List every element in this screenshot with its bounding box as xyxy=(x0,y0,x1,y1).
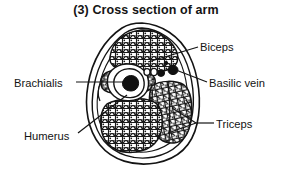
figure-page: (3) Cross section of arm xyxy=(0,0,292,173)
label-humerus: Humerus xyxy=(24,130,69,142)
label-brachialis: Brachialis xyxy=(14,77,63,89)
medullary-cavity xyxy=(122,76,138,91)
label-triceps: Triceps xyxy=(216,118,252,130)
label-biceps: Biceps xyxy=(200,41,234,53)
label-basilic-vein: Basilic vein xyxy=(209,77,265,89)
